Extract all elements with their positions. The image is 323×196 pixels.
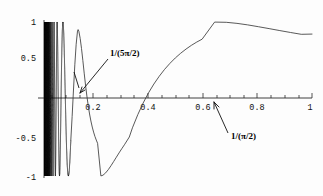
y-tick-label-0: 1 bbox=[31, 18, 36, 28]
chart-plot-area: 0.2 0.4 0.6 0.8 1 1 0.5 -0.5 -1 1/(5π/2)… bbox=[0, 0, 323, 196]
sin-one-over-x-figure: 0.2 0.4 0.6 0.8 1 1 0.5 -0.5 -1 1/(5π/2)… bbox=[0, 0, 323, 196]
y-tick-label-3: -1 bbox=[26, 173, 36, 183]
annotation-label-pi-over-2: 1/(π/2) bbox=[231, 131, 256, 141]
x-tick-label-4: 1 bbox=[307, 103, 312, 113]
y-tick-label-1: 0.5 bbox=[21, 54, 36, 64]
annotation-label-5pi-over-2: 1/(5π/2) bbox=[110, 48, 139, 58]
y-tick-label-2: -0.5 bbox=[16, 134, 36, 144]
sin-curve bbox=[71, 22, 312, 176]
x-tick-label-2: 0.6 bbox=[195, 103, 210, 113]
dense-oscillation-region bbox=[44, 22, 71, 176]
x-tick-label-3: 0.8 bbox=[249, 103, 264, 113]
x-axis-major-ticks bbox=[93, 93, 312, 98]
